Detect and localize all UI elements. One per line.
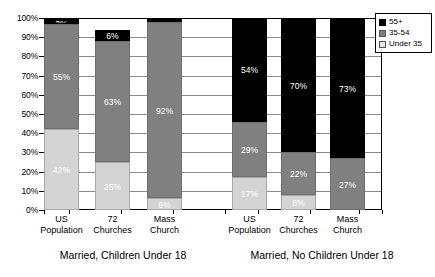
bar-segment-black[interactable]: 54% (232, 18, 267, 122)
legend-label: 55+ (389, 18, 403, 26)
bar-segment-light[interactable]: 17% (232, 177, 267, 210)
bar-column[interactable]: 6%92%2% (147, 18, 182, 210)
bar-column[interactable]: 8%22%70% (281, 18, 316, 210)
bar-segment-light[interactable]: 42% (44, 129, 79, 210)
y-axis-tick-label: 40% (22, 129, 38, 138)
bar-segment-black[interactable]: 6% (95, 30, 130, 42)
bar-segment-mid[interactable]: 27% (330, 158, 365, 210)
bar-segment-mid[interactable]: 22% (281, 152, 316, 194)
bar-segment-label: 63% (96, 98, 129, 107)
bar-segment-label: 92% (148, 107, 181, 116)
bar-segment-mid[interactable]: 63% (95, 41, 130, 162)
legend-label: Under 35 (389, 40, 422, 48)
bar-segment-label: 8% (282, 199, 315, 208)
y-axis-tick-label: 90% (22, 33, 38, 42)
y-axis: 0%10%20%30%40%50%60%70%80%90%100% (0, 18, 44, 211)
bar-segment-label: 17% (233, 190, 266, 199)
legend-item[interactable]: 55+ (379, 17, 428, 27)
y-axis-tick-label: 80% (22, 52, 38, 61)
y-axis-tick-label: 60% (22, 91, 38, 100)
category-label: MassChurch (313, 214, 383, 236)
category-label-line1: Mass (313, 214, 383, 225)
group-label: Married, Children Under 18 (23, 249, 223, 261)
bar-segment-light[interactable]: 8% (281, 195, 316, 210)
bar-column[interactable]: 0%27%73% (330, 18, 365, 210)
legend-swatch-black (379, 19, 386, 26)
y-axis-tick-label: 30% (22, 148, 38, 157)
bar-segment-label: 22% (282, 170, 315, 179)
legend-item[interactable]: Under 35 (379, 39, 428, 49)
bar-column[interactable]: 17%29%54% (232, 18, 267, 210)
bar-segment-label: 42% (45, 166, 78, 175)
bar-segment-label: 29% (233, 146, 266, 155)
bar-segment-label: 3% (45, 20, 78, 24)
bar-column[interactable]: 25%63%6% (95, 18, 130, 210)
bar-segment-label: 6% (96, 32, 129, 41)
category-label: MassChurch (130, 214, 200, 236)
legend-swatch-light (379, 41, 386, 48)
category-label-line1: Mass (130, 214, 200, 225)
bar-segment-label: 25% (96, 183, 129, 192)
bar-segment-label: 70% (282, 82, 315, 91)
y-axis-tick-label: 10% (22, 187, 38, 196)
bar-segment-black[interactable]: 2% (147, 18, 182, 22)
legend: 55+35-54Under 35 (375, 13, 432, 53)
group-label: Married, No Children Under 18 (222, 249, 422, 261)
bar-segment-black[interactable]: 70% (281, 18, 316, 152)
bar-column[interactable]: 42%55%3% (44, 18, 79, 210)
bar-segment-label: 73% (331, 85, 364, 94)
bar-segment-label: 27% (331, 181, 364, 190)
bar-segment-label: 55% (45, 73, 78, 82)
bars-layer: 42%55%3%25%63%6%6%92%2%17%29%54%8%22%70%… (44, 18, 382, 210)
bar-segment-black[interactable]: 3% (44, 18, 79, 24)
y-axis-tick-label: 70% (22, 72, 38, 81)
bar-segment-mid[interactable]: 92% (147, 22, 182, 199)
bar-segment-label: 6% (148, 201, 181, 210)
y-axis-tick-label: 50% (22, 110, 38, 119)
legend-item[interactable]: 35-54 (379, 28, 428, 38)
legend-swatch-mid (379, 30, 386, 37)
bar-segment-label: 2% (148, 20, 181, 22)
category-label-line2: Church (130, 225, 200, 236)
stacked-bar-chart: 0%10%20%30%40%50%60%70%80%90%100% 42%55%… (0, 0, 435, 277)
y-axis-tick-label: 100% (17, 14, 38, 23)
bar-segment-mid[interactable]: 55% (44, 24, 79, 130)
bar-segment-label: 54% (233, 66, 266, 75)
y-axis-tick-label: 20% (22, 168, 38, 177)
legend-label: 35-54 (389, 29, 409, 37)
bar-segment-mid[interactable]: 29% (232, 122, 267, 178)
category-label-line2: Church (313, 225, 383, 236)
bar-segment-light[interactable]: 25% (95, 162, 130, 210)
bar-segment-black[interactable]: 73% (330, 18, 365, 158)
bar-segment-light[interactable]: 6% (147, 198, 182, 210)
